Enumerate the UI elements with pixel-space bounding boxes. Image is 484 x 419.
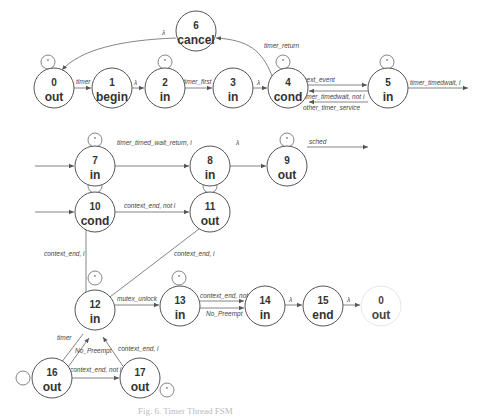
state-13: 13in <box>160 286 200 326</box>
svg-text:2: 2 <box>162 77 168 88</box>
svg-text:3: 3 <box>230 77 236 88</box>
edge-label-1-2: λ <box>133 79 137 86</box>
edge-label-5-4-timedwait: timer_timedwait, not i <box>303 93 365 100</box>
state-2: 2in <box>145 68 185 108</box>
edge-label-14-15: λ <box>288 296 292 303</box>
svg-text:7: 7 <box>92 155 98 166</box>
state-5: 5in <box>368 68 408 108</box>
svg-text:in: in <box>90 168 101 182</box>
svg-text:12: 12 <box>89 299 101 310</box>
svg-text:17: 17 <box>134 367 146 378</box>
svg-text:cancel: cancel <box>177 33 214 47</box>
figure-caption: Fig. 6. Timer Thread FSM <box>138 406 233 416</box>
fsm-diagram: timer λ timer_first λ timer_return λ nex… <box>0 0 484 419</box>
state-17: 17out <box>120 358 160 398</box>
svg-text:out: out <box>131 380 150 394</box>
svg-text:in: in <box>205 168 216 182</box>
self-loop-7: * <box>88 133 102 147</box>
svg-text:in: in <box>260 308 271 322</box>
edge-label-17-12: context_end, i <box>118 345 159 352</box>
self-loop-17: * <box>160 383 174 397</box>
svg-text:13: 13 <box>174 295 186 306</box>
svg-text:out: out <box>278 168 297 182</box>
state-9: 9out <box>267 146 307 186</box>
edge-label-0-1: timer <box>76 78 91 85</box>
svg-text:in: in <box>228 90 239 104</box>
svg-text:6: 6 <box>193 20 199 31</box>
svg-text:out: out <box>201 214 220 228</box>
state-11: 11out <box>190 192 230 232</box>
svg-text:0: 0 <box>378 295 384 306</box>
state-3: 3in <box>213 68 253 108</box>
edge-label-3-4: λ <box>256 79 260 86</box>
state-4: 4cond <box>268 68 308 108</box>
svg-text:10: 10 <box>89 201 101 212</box>
state-14: 14in <box>245 286 285 326</box>
svg-text:5: 5 <box>385 77 391 88</box>
svg-text:4: 4 <box>285 77 291 88</box>
svg-text:out: out <box>45 90 64 104</box>
edge-label-13-14-context: context_end, not i <box>200 292 252 299</box>
edge-label-4-6: timer_return <box>264 42 299 49</box>
state-6: 6cancel <box>176 11 216 51</box>
state-15: 15end <box>303 286 343 326</box>
svg-text:15: 15 <box>317 295 329 306</box>
edge-label-2-3: timer_first <box>183 78 213 85</box>
self-loop-9: * <box>280 133 294 147</box>
svg-text:cond: cond <box>81 214 110 228</box>
state-10: 10cond <box>75 192 115 232</box>
svg-text:in: in <box>160 90 171 104</box>
svg-text:in: in <box>383 90 394 104</box>
state-0-return: 0out <box>361 286 401 326</box>
edge-label-12-16: timer <box>57 334 72 341</box>
svg-text:11: 11 <box>205 201 216 212</box>
state-12: 12in <box>75 290 115 330</box>
self-loop-2: * <box>158 55 172 69</box>
edge-label-16-17: context_end, not i <box>70 366 122 373</box>
svg-text:in: in <box>175 308 186 322</box>
edge-label-6-0: λ <box>161 29 165 36</box>
edge-label-7-8: timer_timed_wait_return, i <box>117 139 192 146</box>
edge-label-13-14-nopreempt: No_Preempt <box>206 310 244 318</box>
state-7: 7in <box>75 146 115 186</box>
svg-text:begin: begin <box>96 90 128 104</box>
svg-text:cond: cond <box>274 90 303 104</box>
self-loop-16 <box>16 371 30 385</box>
svg-text:16: 16 <box>46 367 58 378</box>
edge-label-8-9: λ <box>235 139 239 146</box>
edge-label-16-12: No_Preempt <box>75 347 113 355</box>
svg-text:end: end <box>312 308 333 322</box>
svg-text:out: out <box>43 380 62 394</box>
svg-text:8: 8 <box>207 155 213 166</box>
self-loop-5: * <box>380 55 394 69</box>
svg-text:9: 9 <box>284 155 290 166</box>
edge-label-12-13: mutex_unlock <box>117 295 158 302</box>
state-16: 16out <box>32 358 72 398</box>
self-loop-4: * <box>276 55 290 69</box>
edge-label-15-0: λ <box>346 296 350 303</box>
self-loop-13: * <box>172 271 186 285</box>
svg-text:in: in <box>90 312 101 326</box>
state-1: 1begin <box>92 68 132 108</box>
edge-label-11-12: context_end, i <box>174 250 215 257</box>
edge-label-9-exit: sched <box>309 138 327 145</box>
svg-text:1: 1 <box>109 77 115 88</box>
svg-text:14: 14 <box>259 295 271 306</box>
edge-label-4-5: next_event <box>303 76 336 83</box>
edge-label-10-11: context_end, not i <box>124 202 176 209</box>
self-loop-0: * <box>41 55 55 69</box>
state-8: 8in <box>190 146 230 186</box>
svg-text:out: out <box>372 308 391 322</box>
self-loop-12: * <box>88 271 102 285</box>
state-0: 0out <box>34 68 74 108</box>
edge-label-10-12: context_end, i <box>44 250 85 257</box>
svg-text:0: 0 <box>51 77 57 88</box>
edge-label-5-exit: timer_timedwait, i <box>410 79 461 86</box>
edge-label-5-4-other: other_timer_service <box>303 104 360 111</box>
